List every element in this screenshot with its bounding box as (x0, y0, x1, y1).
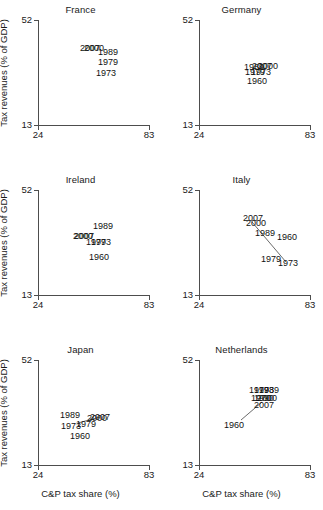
plot-area: 1352248320072000198919791973 (38, 20, 150, 126)
x-axis-title: C&P tax share (%) (161, 488, 322, 499)
y-tick-label: 13 (182, 289, 193, 300)
y-tick-mark (195, 190, 199, 191)
x-tick-label: 24 (194, 469, 205, 480)
y-tick-label: 13 (21, 119, 32, 130)
x-axis-line (38, 125, 150, 126)
y-tick-label: 52 (21, 14, 32, 25)
data-point-year-label: 1973 (278, 259, 298, 268)
y-tick-label: 13 (21, 289, 32, 300)
data-point-year-label: 2007 (254, 401, 274, 410)
plot-area: 13522483200720001989196019791973 (199, 190, 311, 296)
panel-netherlands: Netherlands13522483197919731989197020001… (161, 340, 322, 510)
x-axis-line (199, 295, 311, 296)
x-tick-label: 24 (33, 299, 44, 310)
data-point-year-label: 1960 (224, 421, 244, 430)
y-tick-label: 52 (182, 14, 193, 25)
data-point-year-label: 1973 (91, 238, 111, 247)
y-tick-mark (34, 20, 38, 21)
plot-area: 1352248319791973198919702000199020071960 (199, 360, 311, 466)
y-tick-label: 52 (182, 184, 193, 195)
y-axis-title: Tax revenues (% of GDP) (0, 248, 9, 358)
x-tick-label: 83 (144, 299, 155, 310)
x-tick-label: 24 (33, 469, 44, 480)
data-point-year-label: 1960 (89, 253, 109, 262)
y-tick-mark (34, 190, 38, 191)
x-tick-label: 83 (305, 469, 316, 480)
y-axis-title-text: Tax revenues (% of GDP) (0, 358, 9, 468)
data-point-year-label: 1989 (255, 229, 275, 238)
series-connector-line (199, 190, 311, 296)
data-point-year-label: 1973 (96, 69, 116, 78)
data-point-year-label: 2000 (246, 219, 266, 228)
plot-area: 13522483198920072000197919731960 (199, 20, 311, 126)
x-axis-line (38, 465, 150, 466)
x-axis-title: C&P tax share (%) (0, 488, 161, 499)
panel-ireland: Ireland13522483198920072000197919731960T… (0, 170, 161, 340)
data-point-year-label: 1989 (98, 48, 118, 57)
panel-germany: Germany13522483198920072000197919731960 (161, 0, 322, 170)
x-tick-label: 83 (144, 469, 155, 480)
y-axis-title: Tax revenues (% of GDP) (0, 78, 9, 188)
figure-panel-grid: France1352248320072000198919791973Tax re… (0, 0, 323, 510)
y-tick-mark (34, 360, 38, 361)
plot-area: 13522483198920072000197919731960 (38, 190, 150, 296)
y-axis-title: Tax revenues (% of GDP) (0, 0, 9, 18)
y-tick-label: 13 (182, 459, 193, 470)
x-axis-line (38, 295, 150, 296)
x-tick-label: 83 (305, 299, 316, 310)
x-tick-label: 83 (144, 129, 155, 140)
y-tick-mark (195, 20, 199, 21)
data-point-year-label: 1960 (277, 233, 297, 242)
y-axis-line (199, 190, 200, 296)
data-point-year-label: 1960 (70, 432, 90, 441)
panel-france: France1352248320072000198919791973Tax re… (0, 0, 161, 170)
y-axis-line (199, 20, 200, 126)
series-connector-line (199, 360, 311, 466)
x-axis-line (199, 465, 311, 466)
y-tick-label: 52 (182, 354, 193, 365)
panel-japan: Japan13522483198920072000197919731960Tax… (0, 340, 161, 510)
plot-area: 13522483198920072000197919731960 (38, 360, 150, 466)
y-axis-line (38, 190, 39, 296)
y-tick-label: 52 (21, 354, 32, 365)
y-axis-line (199, 360, 200, 466)
data-point-year-label: 1973 (61, 422, 81, 431)
x-tick-label: 24 (33, 129, 44, 140)
x-tick-label: 24 (194, 129, 205, 140)
y-axis-line (38, 20, 39, 126)
data-point-year-label: 1979 (98, 58, 118, 67)
x-tick-label: 83 (305, 129, 316, 140)
y-axis-line (38, 360, 39, 466)
y-tick-label: 13 (182, 119, 193, 130)
y-tick-label: 52 (21, 184, 32, 195)
data-point-year-label: 1960 (247, 77, 267, 86)
panel-italy: Italy13522483200720001989196019791973 (161, 170, 322, 340)
data-point-year-label: 1989 (93, 222, 113, 231)
y-tick-label: 13 (21, 459, 32, 470)
y-tick-mark (195, 360, 199, 361)
x-axis-line (199, 125, 311, 126)
x-tick-label: 24 (194, 299, 205, 310)
